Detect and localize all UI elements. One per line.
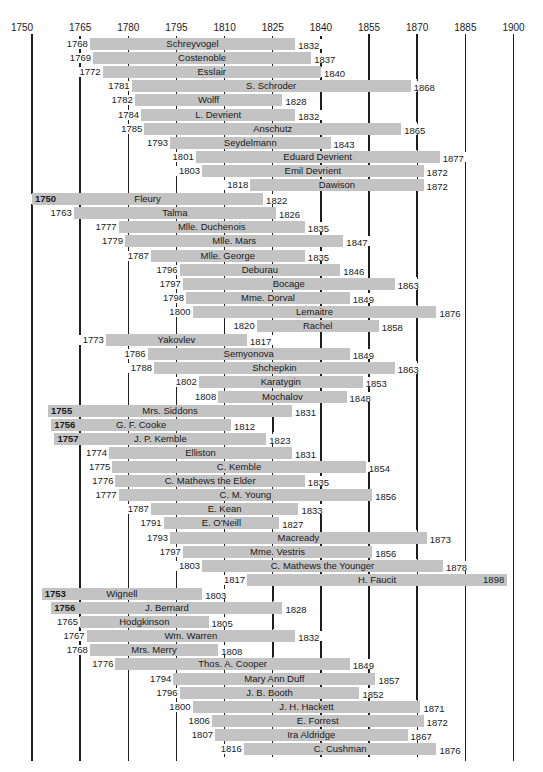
death-year: 1856 bbox=[375, 548, 396, 560]
actor-name: E. Kean bbox=[208, 503, 242, 515]
actor-name: Mrs. Merry bbox=[131, 644, 176, 656]
actor-name: L. Devrient bbox=[195, 109, 241, 121]
actor-name: Yakovlev bbox=[158, 334, 196, 346]
gridline-1840 bbox=[320, 403, 322, 460]
lifespan-bar: Mochalov bbox=[218, 391, 346, 403]
death-year: 1832 bbox=[298, 632, 319, 644]
death-year: 1843 bbox=[334, 139, 355, 151]
death-year: 1848 bbox=[350, 393, 371, 405]
death-year: 1808 bbox=[221, 646, 242, 658]
birth-year: 1818 bbox=[225, 179, 248, 191]
lifespan-bar: Lemaitre bbox=[193, 306, 437, 318]
gridline-1885 bbox=[465, 586, 467, 761]
lifespan-bar: Mlle. Duchenois bbox=[119, 221, 305, 233]
death-year: 1827 bbox=[282, 519, 303, 531]
gridline-tick bbox=[417, 276, 418, 279]
actor-name: Esslair bbox=[197, 66, 226, 78]
actor-name: C. Mathews the Elder bbox=[165, 475, 256, 487]
death-year: 1857 bbox=[378, 675, 399, 687]
death-year: 1863 bbox=[398, 280, 419, 292]
actor-name: Mme. Vestris bbox=[250, 546, 305, 558]
gridline-tick bbox=[272, 332, 273, 335]
lifespan-bar: Seydelmann bbox=[170, 137, 331, 149]
gridline-1765 bbox=[79, 346, 81, 403]
gridline-1840 bbox=[320, 642, 322, 657]
death-year: 1846 bbox=[343, 266, 364, 278]
birth-year: 1800 bbox=[168, 701, 191, 713]
lifespan-bar: Schreyvogel bbox=[90, 38, 295, 50]
death-year: 1828 bbox=[285, 96, 306, 108]
actor-name: Ira Aldridge bbox=[287, 729, 335, 741]
gridline-tick bbox=[320, 107, 321, 110]
birth-year: 1776 bbox=[90, 475, 113, 487]
gridline-tick bbox=[224, 614, 225, 617]
birth-year: 1755 bbox=[51, 405, 72, 417]
death-year: 1871 bbox=[423, 703, 444, 715]
gridline-1810 bbox=[224, 318, 226, 333]
lifespan-bar: Costenoble bbox=[93, 52, 311, 64]
actor-lifespan-timeline-chart: 1750 1765 1780 1795 1810 1825 1840 1855 … bbox=[0, 0, 543, 772]
lifespan-bar: Talma bbox=[74, 207, 276, 219]
death-year: 1852 bbox=[362, 689, 383, 701]
gridline-1765 bbox=[79, 78, 81, 192]
gridline-tick bbox=[320, 501, 321, 504]
lifespan-bar: Semyonova bbox=[148, 348, 350, 360]
actor-name: Macready bbox=[278, 532, 320, 544]
lifespan-bar: Mrs. Siddons bbox=[48, 405, 292, 417]
birth-year: 1798 bbox=[161, 292, 184, 304]
birth-year: 1802 bbox=[174, 376, 197, 388]
death-year: 1873 bbox=[430, 534, 451, 546]
death-year: 1876 bbox=[439, 745, 460, 757]
gridline-1840 bbox=[320, 191, 322, 220]
lifespan-bar: Rachel bbox=[257, 320, 379, 332]
birth-year: 1788 bbox=[129, 362, 152, 374]
actor-name: Talma bbox=[162, 207, 187, 219]
lifespan-bar: C. Cushman bbox=[244, 743, 437, 755]
gridline-1840 bbox=[320, 515, 322, 530]
birth-year: 1781 bbox=[107, 80, 130, 92]
actor-name: J. B. Booth bbox=[246, 687, 292, 699]
birth-year: 1776 bbox=[90, 658, 113, 670]
actor-name: C. M. Young bbox=[220, 489, 272, 501]
gridline-tick bbox=[320, 219, 321, 222]
lifespan-bar: E. O'Neill bbox=[164, 517, 280, 529]
gridline-1840 bbox=[320, 92, 322, 107]
birth-year: 1775 bbox=[87, 461, 110, 473]
gridline-1795 bbox=[176, 318, 178, 333]
gridline-1855 bbox=[368, 248, 370, 277]
actor-name: Lemaitre bbox=[296, 306, 333, 318]
actor-name: S. Schroder bbox=[246, 80, 296, 92]
gridline-1825 bbox=[272, 642, 274, 657]
actor-name: Wignell bbox=[106, 588, 137, 600]
gridline-tick bbox=[465, 558, 466, 561]
gridline-tick bbox=[272, 191, 273, 194]
gridline-1855 bbox=[368, 501, 370, 530]
birth-year: 1750 bbox=[35, 193, 56, 205]
actor-name: E. Forrest bbox=[297, 715, 339, 727]
death-year: 1805 bbox=[212, 618, 233, 630]
gridline-tick bbox=[417, 121, 418, 124]
actor-name: E. O'Neill bbox=[202, 517, 241, 529]
actor-name: C. Mathews the Younger bbox=[271, 560, 375, 572]
gridline-tick bbox=[224, 586, 225, 589]
actor-name: Deburau bbox=[242, 264, 278, 276]
birth-year: 1791 bbox=[139, 517, 162, 529]
lifespan-bar: E. Forrest bbox=[212, 715, 424, 727]
lifespan-bar: J. B. Booth bbox=[180, 687, 360, 699]
birth-year: 1757 bbox=[57, 433, 78, 445]
axis-label: 1900 bbox=[502, 22, 524, 33]
actor-name: Mme. Dorval bbox=[241, 292, 295, 304]
lifespan-bar: Wolff bbox=[135, 94, 283, 106]
death-year: 1863 bbox=[398, 364, 419, 376]
death-year: 1865 bbox=[404, 125, 425, 137]
actor-name: Karatygin bbox=[261, 376, 301, 388]
death-year: 1835 bbox=[308, 477, 329, 489]
gridline-1765 bbox=[79, 219, 81, 333]
actor-name: Fleury bbox=[134, 193, 160, 205]
lifespan-bar: Macready bbox=[170, 532, 427, 544]
lifespan-bar: C. M. Young bbox=[119, 489, 373, 501]
death-year: 1828 bbox=[285, 604, 306, 616]
actor-name: Eduard Devrient bbox=[283, 151, 352, 163]
birth-year: 1769 bbox=[68, 52, 91, 64]
gridline-1855 bbox=[368, 191, 370, 234]
